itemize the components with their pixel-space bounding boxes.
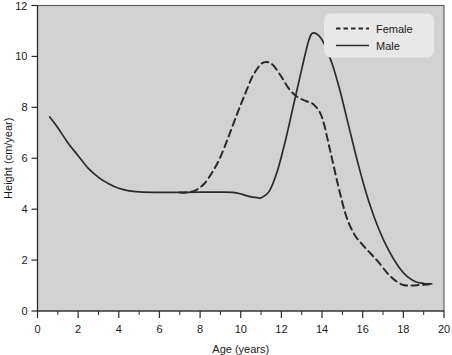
y-tick-label: 12 <box>15 0 27 12</box>
x-tick-label: 18 <box>397 323 409 335</box>
x-tick-label: 8 <box>197 323 203 335</box>
x-tick-label: 4 <box>116 323 122 335</box>
y-tick-label: 0 <box>21 305 27 317</box>
y-tick-label: 4 <box>21 203 27 215</box>
x-tick-label: 16 <box>357 323 369 335</box>
x-tick-label: 6 <box>156 323 162 335</box>
y-tick-label: 8 <box>21 101 27 113</box>
chart-svg: 024681012 02468101214161820 FemaleMale A… <box>0 0 452 355</box>
x-tick-label: 12 <box>275 323 287 335</box>
y-tick-label: 6 <box>21 152 27 164</box>
y-axis: 024681012 <box>15 0 37 317</box>
legend-label-female: Female <box>376 23 413 35</box>
x-tick-label: 20 <box>438 323 450 335</box>
x-axis: 02468101214161820 <box>34 311 450 335</box>
x-tick-label: 10 <box>235 323 247 335</box>
y-tick-label: 2 <box>21 254 27 266</box>
y-axis-tick-labels: 024681012 <box>15 0 27 317</box>
y-axis-title: Height (cm/year) <box>2 118 14 199</box>
x-axis-tick-labels: 02468101214161820 <box>34 323 450 335</box>
x-tick-label: 2 <box>75 323 81 335</box>
legend-label-male: Male <box>376 40 400 52</box>
growth-velocity-chart: 024681012 02468101214161820 FemaleMale A… <box>0 0 452 355</box>
chart-legend: FemaleMale <box>324 14 434 58</box>
y-axis-ticks <box>32 6 38 312</box>
x-axis-title: Age (years) <box>212 343 269 355</box>
x-tick-label: 14 <box>316 323 328 335</box>
x-axis-ticks <box>38 311 445 318</box>
x-tick-label: 0 <box>34 323 40 335</box>
y-tick-label: 10 <box>15 50 27 62</box>
